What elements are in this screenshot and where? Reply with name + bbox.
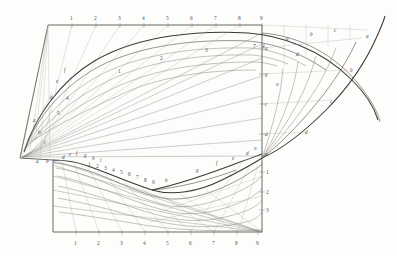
right-wl-b — [262, 70, 348, 74]
center-label-o: o — [265, 151, 268, 157]
top-label-9: 9 — [260, 15, 263, 21]
center-lower-labels: 1 2 3 — [266, 169, 269, 213]
upper-diag-num-1: 1 — [118, 68, 121, 74]
upper-letter-b: b — [310, 31, 313, 37]
keel-letter-e: e — [69, 151, 72, 157]
station-top-1 — [42, 25, 72, 146]
top-label-3: 3 — [118, 15, 121, 21]
chine-letter-f: f — [216, 160, 219, 166]
upper-letter-c: c — [334, 27, 337, 33]
diagonal-up-6 — [22, 118, 262, 157]
bottom-label-1: 1 — [74, 240, 77, 246]
lower-fan-d — [160, 176, 262, 212]
upper-diagonals-group — [20, 25, 262, 158]
keel-letter-g: g — [84, 152, 87, 158]
upper-diagonal-numbers: 1 2 3 4 5 — [57, 47, 208, 116]
bottom-label-3: 3 — [120, 240, 123, 246]
top-label-1: 1 — [70, 15, 73, 21]
upper-diag-num-3: 3 — [205, 47, 208, 53]
right-label-b: b — [350, 67, 353, 73]
chine-letter-g: g — [196, 167, 199, 173]
diagonal-up-1 — [22, 33, 262, 157]
upper-letter-7: 7 — [253, 43, 256, 49]
fan-letter-b: b — [38, 129, 41, 135]
diagonal-up-7 — [22, 140, 262, 157]
station-low-5 — [122, 179, 168, 232]
lower-fan-c — [238, 166, 258, 232]
bottom-label-7: 7 — [212, 240, 215, 246]
upper-letter-d: d — [296, 51, 299, 57]
keel-num-8: 8 — [144, 177, 147, 183]
chine-letter-e: e — [232, 155, 235, 161]
station-low-2 — [74, 164, 99, 232]
upper-stations-group — [22, 23, 262, 158]
keel-num-3: 3 — [104, 165, 107, 171]
diagonal-up-2 — [22, 44, 262, 157]
upper-letter-4: 4 — [262, 43, 265, 49]
right-wl-top — [262, 25, 368, 30]
bottom-label-4: 4 — [143, 240, 146, 246]
chine-letter-d: d — [246, 150, 249, 156]
bottom-label-8: 8 — [235, 240, 238, 246]
top-label-7: 7 — [214, 15, 217, 21]
buttock-curve-6 — [58, 198, 262, 227]
center-label-c: c — [265, 101, 268, 107]
bottom-label-9: 9 — [256, 240, 259, 246]
keel-letter-b: b — [46, 158, 49, 164]
bottom-label-5: 5 — [166, 240, 169, 246]
top-label-4: 4 — [142, 15, 145, 21]
diagonal-up-8 — [22, 156, 262, 157]
station-top-7 — [23, 25, 216, 157]
keel-letter-d: d — [62, 154, 65, 160]
center-low-label-1: 1 — [266, 169, 269, 175]
bottom-scale-labels: 1 2 3 4 5 6 7 8 9 — [74, 240, 259, 246]
fan-letter-a: a — [33, 117, 36, 123]
lower-fan-e — [150, 196, 262, 222]
fan-letter-f: f — [64, 67, 67, 73]
lines-plan-drawing: 1 2 3 4 5 6 7 8 9 1 2 3 4 5 6 7 8 9 a g … — [0, 0, 397, 256]
right-label-a: a — [366, 33, 369, 39]
station-top-0 — [36, 25, 48, 132]
diagonal-up-3 — [22, 58, 262, 157]
top-label-6: 6 — [190, 15, 193, 21]
center-label-g: g — [265, 71, 268, 77]
lower-fan-b — [214, 162, 252, 232]
fan-letter-d: d — [50, 94, 53, 100]
waterline-6 — [34, 70, 256, 140]
keel-letter-i: i — [100, 157, 102, 163]
top-label-8: 8 — [238, 15, 241, 21]
lower-diag-4 — [53, 190, 262, 232]
center-upper-labels: a g c d o — [265, 45, 268, 157]
upper-diag-num-4: 4 — [66, 95, 69, 101]
chine-letter-h: h — [165, 177, 168, 183]
keel-letter-h: h — [92, 155, 95, 161]
station-top-5 — [26, 25, 168, 156]
keel-num-4: 4 — [112, 167, 115, 173]
lower-diag-5 — [53, 206, 262, 232]
top-label-5: 5 — [166, 15, 169, 21]
waterline-5 — [32, 62, 277, 142]
upper-letter-g: g — [286, 35, 289, 41]
upper-letter-o: o — [276, 81, 279, 87]
stern-curve-6 — [262, 68, 283, 158]
diagonal-up-4 — [22, 76, 262, 157]
keel-num-6: 6 — [128, 171, 131, 177]
station-top-4 — [30, 25, 144, 154]
keel-num-1: 1 — [88, 161, 91, 167]
right-wl-c — [262, 100, 330, 104]
keel-num-2: 2 — [96, 163, 99, 169]
center-label-d: d — [265, 131, 268, 137]
center-low-label-3: 3 — [266, 207, 269, 213]
keel-num-7: 7 — [136, 174, 139, 180]
chine-line — [152, 154, 262, 190]
stern-curve-3 — [262, 48, 336, 158]
center-low-label-2: 2 — [266, 189, 269, 195]
right-label-d: d — [305, 129, 308, 135]
station-low-1 — [62, 162, 76, 232]
station-top-6 — [24, 25, 192, 157]
bottom-label-2: 2 — [97, 240, 100, 246]
bottom-label-6: 6 — [189, 240, 192, 246]
chine-letter-o: o — [254, 145, 257, 151]
keel-num-9: 9 — [152, 179, 155, 185]
keel-letter-a: a — [36, 158, 39, 164]
